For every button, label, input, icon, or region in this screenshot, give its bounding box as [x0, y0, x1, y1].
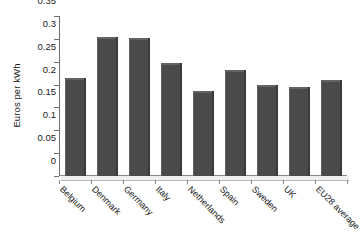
y-axis-tick-mark	[54, 176, 59, 177]
x-axis-tick-mark	[347, 180, 348, 184]
y-axis-tick-mark	[54, 39, 59, 40]
y-axis-tick-label: 0.3	[43, 17, 56, 28]
y-axis-tick-label: 0.05	[38, 132, 57, 143]
y-axis-tick-label: 0.1	[43, 109, 56, 120]
y-axis-tick-mark	[54, 62, 59, 63]
bar-group	[225, 16, 245, 176]
bar	[257, 85, 278, 176]
x-axis-tick-mark	[187, 180, 188, 184]
x-axis-tick-labels: BelgiumDenmarkGermanyItalyNetherlandsSpa…	[59, 184, 353, 252]
x-axis-tick-mark	[91, 180, 92, 184]
x-axis-tick-label: Denmark	[90, 184, 123, 217]
bar-group	[65, 16, 85, 176]
x-axis-tick-mark	[219, 180, 220, 184]
x-axis-tick-label: Italy	[154, 184, 173, 203]
x-axis-tick-mark	[315, 180, 316, 184]
bar-group	[129, 16, 149, 176]
y-axis-tick-label: 0.2	[43, 63, 56, 74]
y-axis-tick-label: 0	[51, 155, 56, 166]
bar	[321, 80, 342, 176]
y-axis-title-text: Euros per kWh	[11, 63, 22, 127]
x-axis-tick-label: Spain	[218, 184, 241, 207]
bar	[65, 78, 86, 176]
y-axis-tick-mark	[54, 16, 59, 17]
bar-group	[289, 16, 309, 176]
x-axis-tick-mark	[123, 180, 124, 184]
y-axis-tick-labels: 00.050.10.150.20.250.30.35	[22, 0, 56, 190]
bar-group	[97, 16, 117, 176]
bar	[225, 70, 246, 176]
bar	[97, 37, 118, 176]
y-axis-tick-mark	[54, 107, 59, 108]
y-axis-tick-label: 0.35	[38, 0, 57, 6]
bar	[161, 63, 182, 176]
y-axis-tick-label: 0.25	[38, 40, 57, 51]
x-axis-tick-mark	[251, 180, 252, 184]
x-axis-tick-label: EU28 average	[314, 184, 362, 232]
bar-group	[193, 16, 213, 176]
y-axis-tick-label: 0.15	[38, 86, 57, 97]
x-axis-tick-mark	[59, 180, 60, 184]
plot-area	[59, 16, 347, 176]
x-axis-tick-mark	[283, 180, 284, 184]
bar-group	[161, 16, 181, 176]
bar-group	[257, 16, 277, 176]
x-axis-tick-label: Belgium	[58, 184, 88, 214]
bar	[289, 87, 310, 176]
x-axis-tick-label: Germany	[122, 184, 155, 217]
bar	[193, 91, 214, 176]
x-axis-tick-label: Sweden	[250, 184, 280, 214]
bar-group	[321, 16, 341, 176]
x-axis-floor	[61, 176, 349, 181]
y-axis-tick-mark	[54, 85, 59, 86]
y-axis-tick-mark	[54, 130, 59, 131]
x-axis-tick-mark	[155, 180, 156, 184]
x-axis-tick-label: UK	[282, 184, 298, 200]
bar	[129, 38, 150, 177]
y-axis-tick-mark	[54, 153, 59, 154]
